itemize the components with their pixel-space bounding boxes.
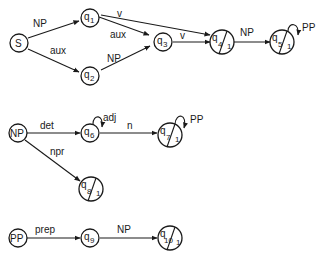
svg-text:1: 1: [227, 42, 232, 51]
edge-label-np-4: NP: [117, 224, 131, 235]
edge-label-n: n: [127, 120, 133, 131]
node-q7-final: q 7 1: [158, 123, 182, 147]
atn-diagram: NP aux v aux NP v NP PP S q 1 q 2: [0, 0, 321, 262]
edge-label-pp: PP: [302, 22, 316, 33]
edge-label-det: det: [40, 120, 54, 131]
svg-text:q: q: [84, 69, 90, 80]
node-q9: q 9: [81, 229, 99, 247]
svg-text:1: 1: [287, 42, 292, 51]
svg-text:7: 7: [166, 133, 171, 142]
s-network: NP aux v aux NP v NP PP S q 1 q 2: [10, 8, 316, 85]
edge-label-aux-2: aux: [110, 29, 126, 40]
svg-text:q: q: [157, 35, 163, 46]
node-q4-final: q 4 1: [210, 30, 234, 54]
svg-text:10: 10: [164, 236, 173, 245]
svg-text:8: 8: [87, 187, 92, 196]
node-s: S: [10, 34, 28, 52]
edge-label-npr: npr: [50, 146, 65, 157]
svg-text:4: 4: [218, 40, 223, 49]
edge-label-v: v: [117, 8, 122, 19]
node-q2: q 2: [81, 67, 99, 85]
svg-text:6: 6: [90, 131, 95, 140]
svg-text:1: 1: [175, 135, 180, 144]
svg-text:NP: NP: [10, 128, 24, 139]
svg-text:q: q: [84, 231, 90, 242]
node-q3: q 3: [154, 33, 172, 51]
svg-text:3: 3: [163, 40, 168, 49]
svg-text:5: 5: [278, 40, 283, 49]
svg-text:2: 2: [90, 74, 95, 83]
edge-label-np: NP: [33, 18, 47, 29]
node-np: NP: [9, 124, 27, 142]
edge-label-np-3: NP: [240, 27, 254, 38]
node-q8-final: q 8 1: [79, 177, 103, 201]
svg-text:q: q: [81, 179, 87, 190]
pp-network: prep NP PP q 9 q 10 1: [9, 224, 182, 250]
svg-text:S: S: [15, 38, 22, 49]
node-q1: q 1: [81, 9, 99, 27]
svg-text:PP: PP: [10, 233, 24, 244]
svg-text:9: 9: [90, 236, 95, 245]
edge-label-pp-2: PP: [190, 114, 204, 125]
svg-text:q: q: [272, 32, 278, 43]
edge-label-aux: aux: [50, 45, 66, 56]
svg-text:1: 1: [96, 189, 101, 198]
node-q6: q 6: [81, 124, 99, 142]
edge-label-adj: adj: [103, 112, 116, 123]
node-q10-final: q 10 1: [158, 226, 182, 250]
edge-label-v-2: v: [180, 30, 185, 41]
edge-label-prep: prep: [35, 224, 55, 235]
np-network: det adj n PP npr NP q 6 q 7 1 q 8: [9, 112, 204, 201]
edge-label-np-2: NP: [107, 53, 121, 64]
svg-text:q: q: [212, 32, 218, 43]
node-pp: PP: [9, 229, 27, 247]
svg-text:q: q: [84, 126, 90, 137]
svg-text:1: 1: [176, 238, 181, 247]
svg-text:q: q: [84, 11, 90, 22]
svg-text:1: 1: [90, 16, 95, 25]
svg-text:q: q: [160, 125, 166, 136]
node-q5-final: q 5 1: [270, 30, 294, 54]
